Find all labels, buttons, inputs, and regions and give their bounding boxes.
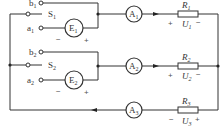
b1-terminal — [39, 1, 43, 5]
arrow-icon — [153, 64, 159, 68]
a1-terminal — [39, 26, 43, 30]
a2-label: a2 — [27, 75, 34, 86]
r1-resistor — [178, 11, 198, 17]
r3-label: R3 — [181, 96, 191, 107]
right-rail-wire — [198, 14, 218, 110]
r2-resistor — [178, 63, 198, 69]
u3-right-sign: + — [195, 115, 200, 124]
b2-label: b2 — [29, 47, 37, 58]
e1-plus: + — [84, 36, 89, 45]
a2-terminal — [39, 78, 43, 82]
e1-minus: − — [56, 35, 61, 44]
u2-label: U2 — [182, 71, 192, 82]
r1-label: R1 — [181, 0, 191, 11]
s2-pivot — [26, 63, 30, 67]
arrow-icon — [91, 108, 97, 112]
u2-left-sign: + — [168, 71, 173, 80]
e2-wire — [83, 66, 98, 80]
circuit-diagram: S1 b1 a1 E1 − + A1 R1 U1 + − S2 b2 a2 E2… — [0, 0, 220, 133]
e2-plus: + — [84, 88, 89, 97]
e2-minus: − — [56, 87, 61, 96]
b2-terminal — [39, 50, 43, 54]
e1-wire — [83, 14, 98, 28]
u3-label: U3 — [182, 116, 192, 127]
s1-pivot — [26, 12, 30, 16]
u1-label: U1 — [182, 19, 192, 30]
s1-label: S1 — [48, 9, 56, 20]
arrow-icon — [153, 12, 159, 16]
u1-right-sign: − — [196, 18, 201, 27]
b1-label: b1 — [29, 0, 37, 9]
a1-label: a1 — [27, 23, 34, 34]
junction-right — [216, 64, 219, 67]
r2-label: R2 — [181, 52, 191, 63]
u1-left-sign: + — [168, 19, 173, 28]
r3-resistor — [178, 107, 198, 113]
u2-right-sign: − — [196, 70, 201, 79]
u3-left-sign: − — [169, 115, 174, 124]
s2-label: S2 — [48, 60, 56, 71]
